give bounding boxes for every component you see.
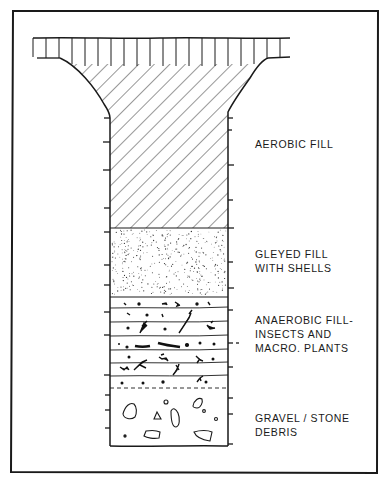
label-line: MACRO. PLANTS	[255, 341, 353, 355]
label-aerobic-fill: AEROBIC FILL	[255, 137, 333, 151]
layer-anaerobic-fill	[110, 302, 228, 388]
label-line: INSECTS AND	[255, 327, 353, 341]
label-gleyed-fill: GLEYED FILL WITH SHELLS	[255, 247, 332, 275]
label-line: GRAVEL / STONE	[255, 411, 350, 425]
layer-gravel-stone-debris	[123, 398, 218, 441]
label-line: GLEYED FILL	[255, 247, 332, 261]
label-gravel-stone-debris: GRAVEL / STONE DEBRIS	[255, 411, 350, 439]
label-line: ANAEROBIC FILL-	[255, 313, 353, 327]
layer-gleyed-fill	[110, 228, 228, 297]
label-line: DEBRIS	[255, 425, 350, 439]
label-anaerobic-fill: ANAEROBIC FILL- INSECTS AND MACRO. PLANT…	[255, 313, 353, 355]
label-line: AEROBIC FILL	[255, 137, 333, 151]
label-line: WITH SHELLS	[255, 261, 332, 275]
cap-vertical-hatch	[33, 38, 290, 66]
